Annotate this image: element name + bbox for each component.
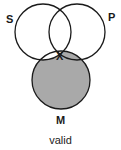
label-s: S bbox=[6, 14, 13, 25]
x-marker: X bbox=[56, 51, 63, 62]
venn-diagram bbox=[0, 0, 121, 150]
caption-valid: valid bbox=[0, 135, 121, 146]
label-m: M bbox=[56, 115, 65, 126]
label-p: P bbox=[108, 12, 115, 23]
